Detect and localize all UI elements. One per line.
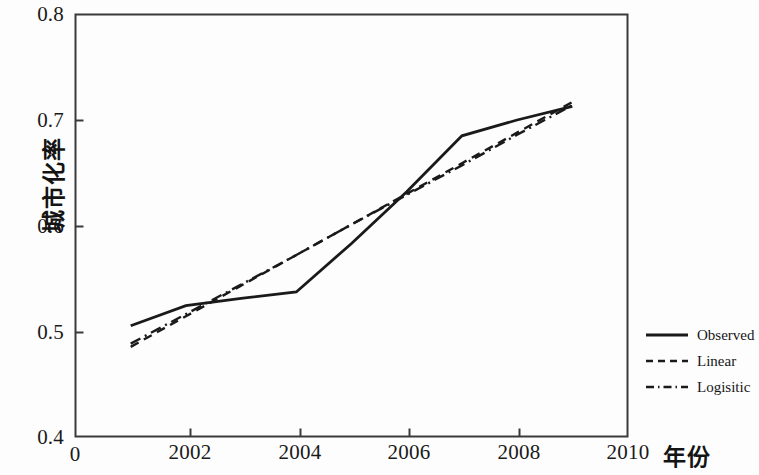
x-tick-label-2004: 2004 xyxy=(260,440,340,465)
x-axis-title: 年份 xyxy=(663,438,711,472)
y-axis-title: 城市化率 xyxy=(35,115,69,255)
legend-item-logisitic: Logisitic xyxy=(645,374,759,400)
plot-frame xyxy=(76,15,628,437)
chart-legend: Observed Linear Logisitic xyxy=(645,322,759,400)
x-tick-label-2006: 2006 xyxy=(369,440,449,465)
x-tick-label-2008: 2008 xyxy=(479,440,559,465)
x-tick-label-2002: 2002 xyxy=(150,440,230,465)
y-axis-ticks xyxy=(76,121,84,333)
x-axis-ticks xyxy=(191,429,520,437)
legend-item-linear: Linear xyxy=(645,348,759,374)
legend-label-linear: Linear xyxy=(697,353,736,370)
legend-swatch-dashed xyxy=(645,354,689,368)
data-series-layer xyxy=(131,102,573,347)
legend-swatch-solid xyxy=(645,328,689,342)
x-tick-label-2010: 2010 xyxy=(588,440,668,465)
chart-figure: 0.8 0.7 0.6 0.5 0.4 0 2002 2004 2006 200… xyxy=(0,0,759,475)
y-tick-label-0.8: 0.8 xyxy=(14,2,64,27)
legend-item-observed: Observed xyxy=(645,322,759,348)
legend-swatch-dashdot xyxy=(645,380,689,394)
legend-label-logisitic: Logisitic xyxy=(697,379,750,396)
y-tick-label-0.5: 0.5 xyxy=(14,320,64,345)
legend-label-observed: Observed xyxy=(697,327,754,344)
x-tick-label-0: 0 xyxy=(55,442,95,467)
chart-canvas xyxy=(0,0,759,475)
series-line-linear xyxy=(131,102,573,347)
series-line-logisitic xyxy=(131,105,573,343)
